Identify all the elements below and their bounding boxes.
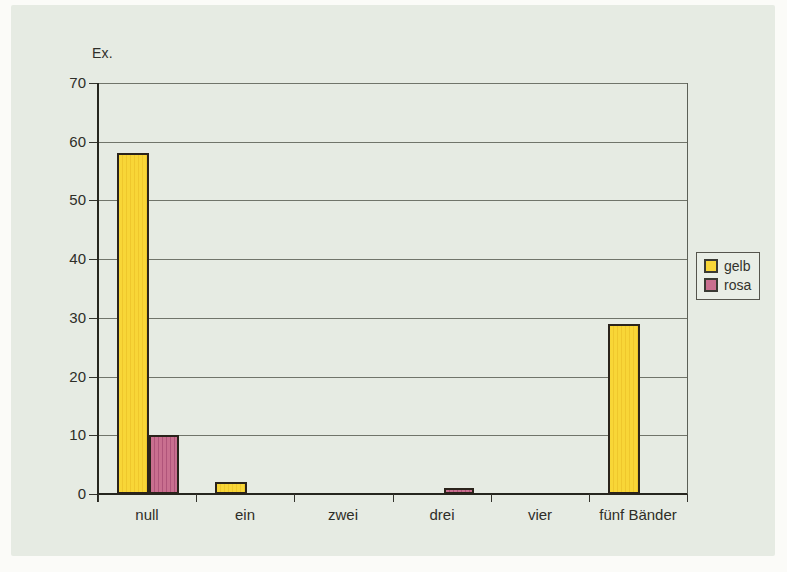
y-tick-label-40: 40 <box>50 251 86 267</box>
x-tick-6 <box>687 494 688 502</box>
y-tick-label-50: 50 <box>50 192 86 208</box>
y-axis-line <box>97 83 99 502</box>
bar-chart: 010203040506070nulleinzweidreivierfünf B… <box>0 0 787 572</box>
x-tick-4 <box>491 494 492 502</box>
y-tick-20 <box>89 377 97 378</box>
legend-swatch-rosa <box>704 278 718 292</box>
x-tick-0 <box>98 494 99 502</box>
legend-swatch-gelb <box>704 259 718 273</box>
bar-rosa-drei <box>444 488 474 494</box>
x-tick-2 <box>294 494 295 502</box>
gridline-50 <box>98 200 687 201</box>
bar-gelb-ein <box>215 482 247 494</box>
y-tick-label-20: 20 <box>50 369 86 385</box>
y-tick-label-70: 70 <box>50 75 86 91</box>
bar-gelb-fünf Bänder <box>608 324 640 494</box>
y-tick-label-60: 60 <box>50 134 86 150</box>
y-tick-30 <box>89 318 97 319</box>
gridline-40 <box>98 259 687 260</box>
legend-label-gelb: gelb <box>724 258 750 274</box>
y-tick-60 <box>89 142 97 143</box>
page-background: Ex. 010203040506070nulleinzweidreivierfü… <box>0 0 787 572</box>
x-tick-3 <box>393 494 394 502</box>
y-tick-label-0: 0 <box>50 486 86 502</box>
y-tick-10 <box>89 435 97 436</box>
plot-right-border <box>687 83 688 494</box>
y-tick-70 <box>89 83 97 84</box>
legend-entry-gelb: gelb <box>704 258 751 274</box>
bar-rosa-null <box>149 435 179 494</box>
legend: gelbrosa <box>696 252 760 300</box>
y-tick-0 <box>89 494 97 495</box>
y-tick-label-30: 30 <box>50 310 86 326</box>
x-tick-5 <box>589 494 590 502</box>
bar-gelb-null <box>117 153 149 494</box>
x-tick-1 <box>196 494 197 502</box>
gridline-10 <box>98 435 687 436</box>
x-category-label-6: fünf Bänder <box>573 506 703 523</box>
y-tick-50 <box>89 200 97 201</box>
y-tick-label-10: 10 <box>50 427 86 443</box>
gridline-60 <box>98 142 687 143</box>
legend-entry-rosa: rosa <box>704 277 751 293</box>
gridline-20 <box>98 377 687 378</box>
gridline-70 <box>98 83 687 84</box>
y-tick-40 <box>89 259 97 260</box>
gridline-30 <box>98 318 687 319</box>
legend-label-rosa: rosa <box>724 277 751 293</box>
